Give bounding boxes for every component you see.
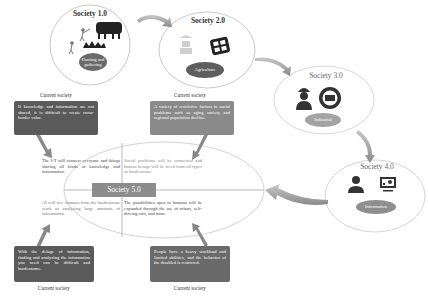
arrow-1-to-2 (137, 15, 172, 27)
society-4-title: Society 4.0 (349, 162, 405, 171)
society-1-title: Society 1.0 (62, 9, 118, 18)
quadrant-bottom-right: The possibilities open to humans will be… (124, 200, 202, 217)
society-2-label: Agriculture (186, 62, 224, 78)
problem-bl-box: With the deluge of information, finding … (14, 246, 94, 282)
problem-tr-box: A variety of restrictive factors in soci… (150, 101, 234, 135)
society-1-label: Hunting and gathering (79, 53, 107, 71)
society-5-title: Society 5.0 (92, 183, 156, 197)
arrow-3-to-4 (356, 130, 375, 163)
problem-tl-box: If knowledge and information are not sha… (14, 101, 98, 135)
problem-bl-caption: Current society (14, 285, 94, 291)
quadrant-top-left: The I-T will connect everyone and things… (42, 158, 120, 175)
arrow-2-to-3 (255, 57, 291, 76)
problem-tr-caption: Current society (148, 92, 232, 98)
arrow-4-to-5 (265, 184, 328, 205)
factory-gear-icon (319, 87, 341, 109)
quadrant-bottom-left: AI will free humans from the burdensome … (42, 200, 120, 217)
problem-tl-caption: Current society (14, 92, 98, 98)
problem-br-box: People have a heavy workload and limited… (150, 246, 230, 282)
problem-br-caption: Current society (150, 285, 230, 291)
society-3-title: Society 3.0 (298, 71, 354, 80)
arrow-problem-tl (36, 133, 52, 158)
society-3-label: Industrial (305, 113, 341, 127)
society-2-title: Society 2.0 (180, 16, 236, 25)
society-4-label: Information (356, 200, 396, 214)
quadrant-top-right: Social problems will be connected and hu… (124, 158, 202, 175)
